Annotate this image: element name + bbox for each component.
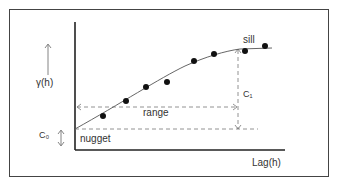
nugget-label: nugget [80, 133, 111, 144]
data-point [242, 48, 248, 54]
nugget-symbol-label: C₀ [39, 130, 49, 140]
y-arrow-icon [45, 44, 51, 75]
data-point [191, 58, 197, 64]
data-point [211, 51, 217, 57]
nugget-double-arrow-icon [58, 130, 64, 146]
data-point [100, 113, 106, 119]
empirical-points [100, 43, 268, 119]
data-point [143, 84, 149, 90]
y-axis-label: γ(h) [36, 77, 53, 88]
data-point [123, 98, 129, 104]
x-axis-label: Lag(h) [252, 157, 281, 168]
data-point [262, 43, 268, 49]
semivariogram-plot [0, 0, 337, 185]
range-label: range [143, 107, 169, 118]
data-point [164, 79, 170, 85]
partial-sill-dashed-arrow [235, 49, 241, 129]
partial-sill-symbol-label: C₁ [243, 89, 253, 99]
sill-label: sill [243, 34, 255, 45]
